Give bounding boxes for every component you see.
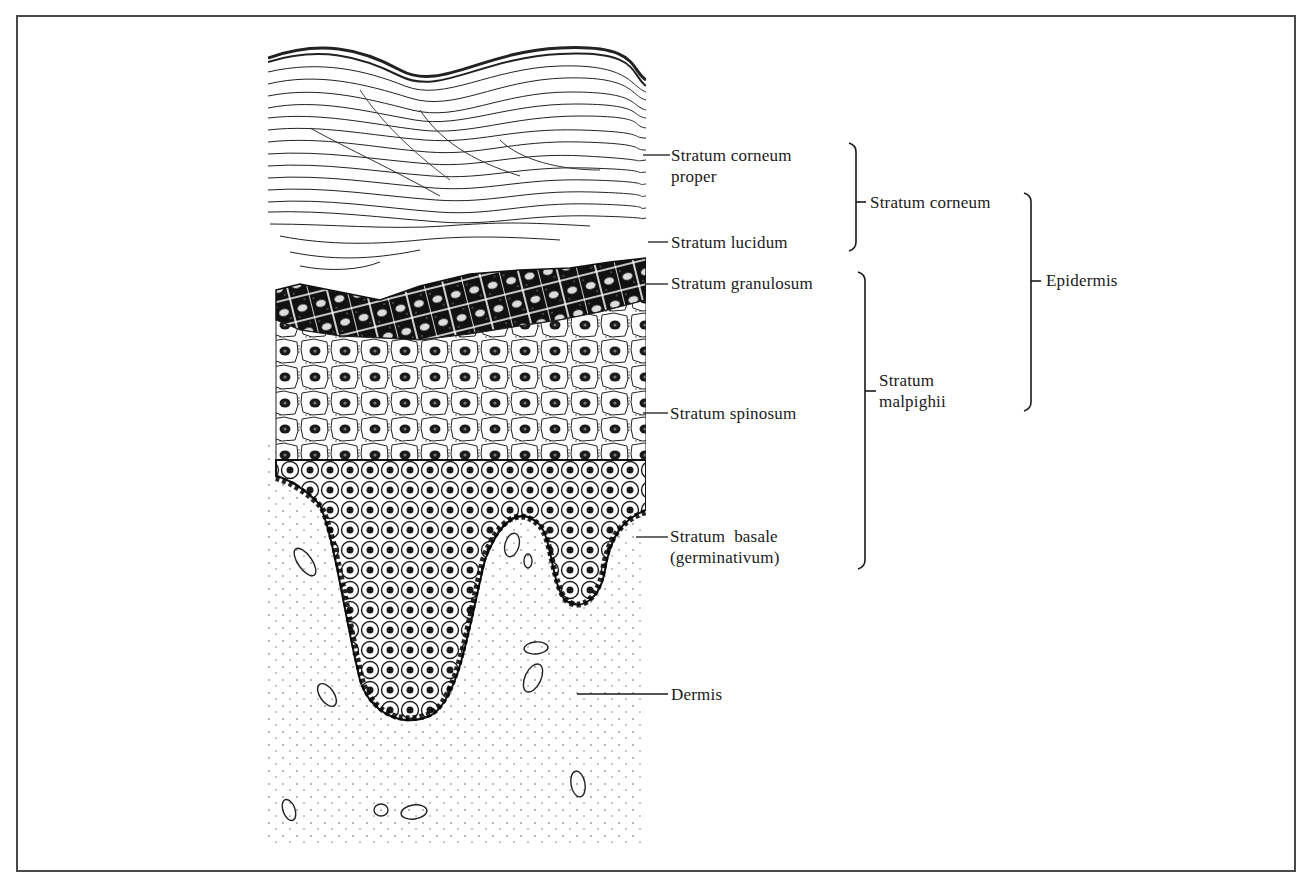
label-stratum-lucidum: Stratum lucidum [671, 232, 788, 253]
label-group-stratum-malpighii: Stratum malpighii [879, 370, 946, 412]
skin-section-illustration [0, 0, 1316, 875]
label-stratum-spinosum: Stratum spinosum [670, 403, 796, 424]
label-line: proper [671, 166, 792, 187]
label-line: Stratum basale [670, 526, 780, 547]
label-dermis: Dermis [671, 684, 722, 705]
label-group-epidermis: Epidermis [1046, 270, 1118, 291]
label-group-stratum-corneum: Stratum corneum [870, 192, 991, 213]
stratum-corneum-lines [268, 48, 646, 270]
bracket-epidermis [1024, 193, 1031, 411]
bracket-stratum-corneum [849, 143, 856, 251]
label-line: malpighii [879, 391, 946, 412]
label-stratum-granulosum: Stratum granulosum [671, 273, 813, 294]
bracket-stratum-malpighii [858, 272, 865, 569]
label-line: Stratum [879, 370, 946, 391]
label-line: (germinativum) [670, 547, 780, 568]
label-stratum-basale: Stratum basale (germinativum) [670, 526, 780, 568]
label-stratum-corneum-proper: Stratum corneum proper [671, 145, 792, 187]
label-line: Stratum corneum [671, 145, 792, 166]
